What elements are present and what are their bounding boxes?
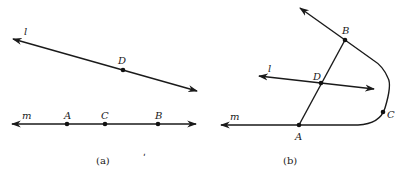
ray-b bbox=[300, 8, 345, 40]
point-a bbox=[297, 123, 302, 128]
point-b bbox=[343, 38, 348, 43]
point-b bbox=[156, 122, 161, 127]
point-c bbox=[103, 122, 108, 127]
point-d bbox=[121, 68, 126, 73]
point-c bbox=[381, 110, 386, 115]
line-l-label: l bbox=[24, 26, 27, 37]
point-d-label: D bbox=[117, 55, 126, 66]
point-c-label: C bbox=[387, 109, 395, 120]
figure-b: B D A C l m (b) bbox=[221, 8, 395, 166]
line-m-label: m bbox=[230, 111, 239, 122]
point-c-label: C bbox=[101, 110, 109, 121]
point-b-label: B bbox=[154, 110, 162, 121]
point-a bbox=[65, 122, 70, 127]
line-l-label: l bbox=[268, 63, 271, 74]
line-m-label: m bbox=[22, 110, 31, 121]
point-d-label: D bbox=[312, 71, 321, 82]
stray-mark: ʹ bbox=[143, 152, 146, 163]
point-a-label: A bbox=[63, 110, 71, 121]
caption-b: (b) bbox=[283, 155, 297, 166]
point-a-label: A bbox=[294, 131, 302, 142]
point-b-label: B bbox=[341, 25, 349, 36]
caption-a: (a) bbox=[96, 155, 110, 166]
figure-a: l D m A C B (a) bbox=[12, 26, 197, 166]
line-l bbox=[13, 39, 197, 91]
geometry-figure: l D m A C B (a) ʹ B D A C l m (b) bbox=[0, 0, 404, 172]
